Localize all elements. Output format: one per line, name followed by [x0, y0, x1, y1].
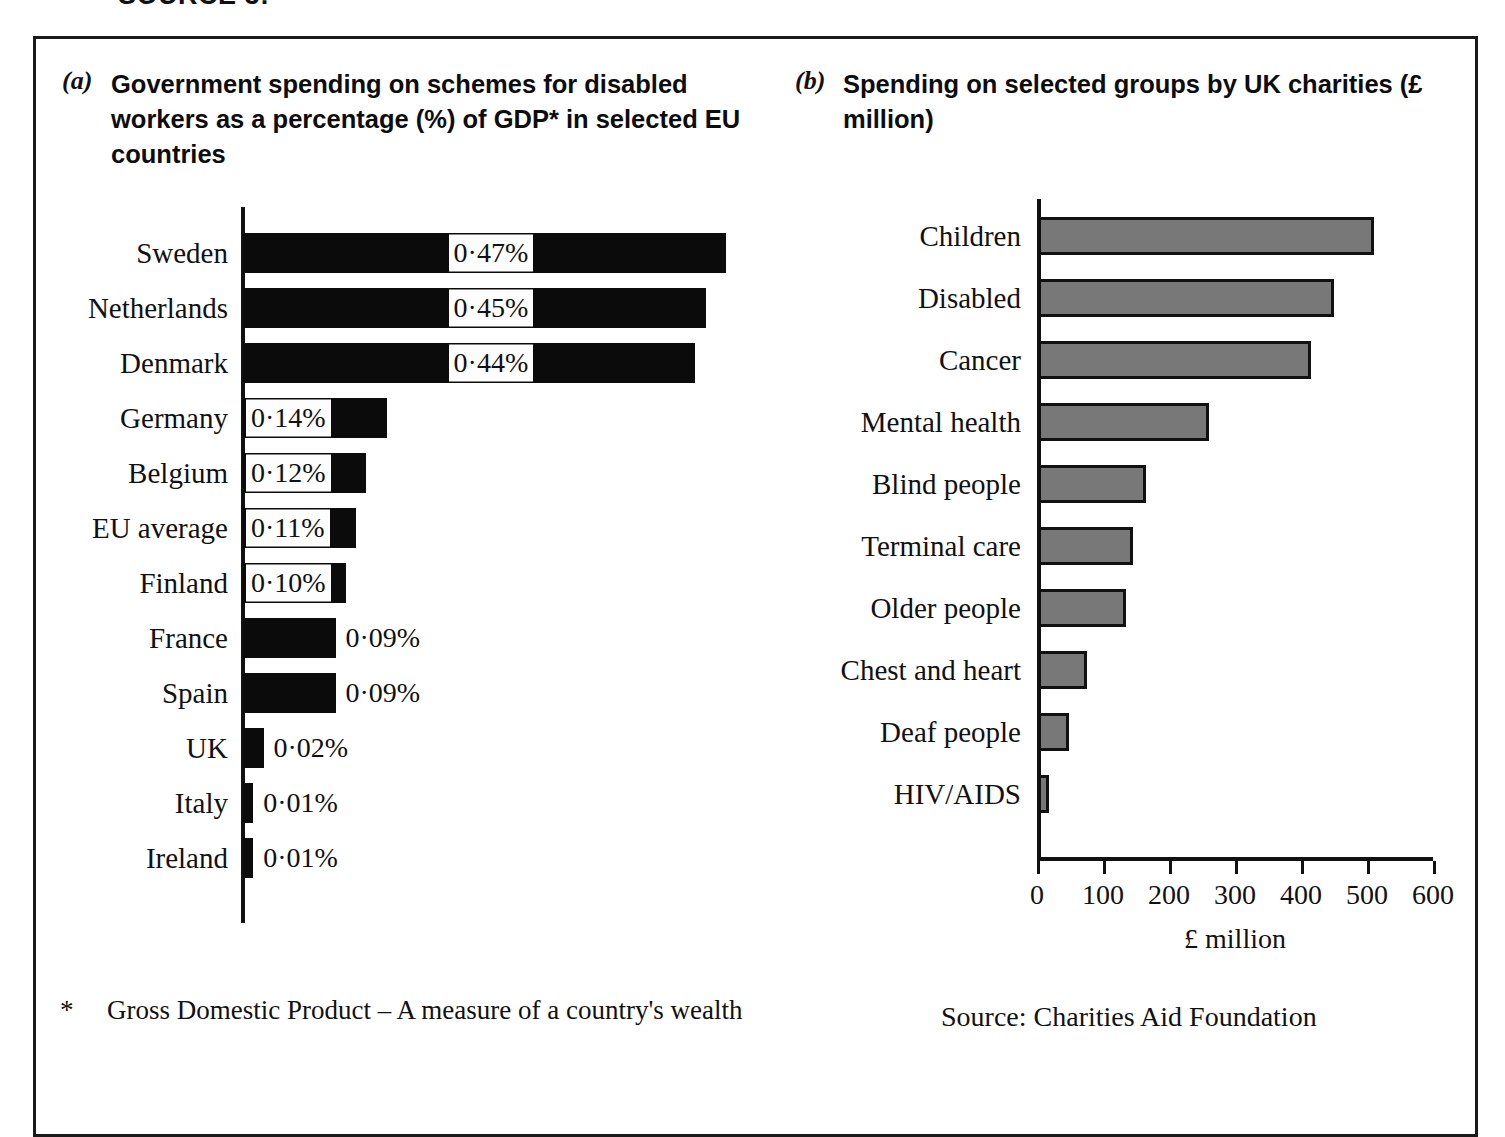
- chart-a-bar-row: Belgium0·12%: [36, 445, 781, 500]
- chart-b-y-axis: [1037, 199, 1041, 861]
- panel-b-title: Spending on selected groups by UK charit…: [843, 67, 1463, 137]
- chart-a-category-label: France: [149, 621, 228, 654]
- chart-a-value-label: 0·10%: [246, 564, 331, 601]
- footnote-gdp: * Gross Domestic Product – A measure of …: [60, 989, 760, 1031]
- chart-b-tick-label: 0: [1030, 879, 1044, 911]
- chart-a-category-label: Sweden: [136, 236, 228, 269]
- chart-b-tick-label: 300: [1214, 879, 1256, 911]
- chart-a-bar: [243, 838, 253, 878]
- chart-b-tick-label: 100: [1082, 879, 1124, 911]
- chart-a-value-label: 0·12%: [246, 454, 331, 491]
- chart-uk-charity-spending: ChildrenDisabledCancerMental healthBlind…: [781, 159, 1478, 949]
- chart-a-bar: [243, 618, 336, 658]
- chart-a-category-label: Denmark: [120, 346, 228, 379]
- chart-a-category-label: Finland: [139, 566, 228, 599]
- chart-a-value-label: 0·44%: [449, 344, 534, 381]
- chart-a-value-label: 0·01%: [263, 844, 338, 872]
- chart-a-category-label: Ireland: [146, 841, 228, 874]
- source-attribution: Source: Charities Aid Foundation: [941, 1001, 1317, 1033]
- panel-b-letter: (b): [795, 66, 825, 96]
- panel-a: (a) Government spending on schemes for d…: [36, 39, 781, 1134]
- chart-a-category-label: Spain: [162, 676, 228, 709]
- chart-a-bar-row: Ireland0·01%: [36, 830, 781, 885]
- chart-b-category-label: Chest and heart: [841, 654, 1021, 687]
- chart-a-category-label: EU average: [92, 511, 228, 544]
- chart-b-category-label: Disabled: [918, 282, 1021, 315]
- chart-a-bar-row: EU average0·11%: [36, 500, 781, 555]
- chart-a-value-label: 0·11%: [246, 509, 330, 546]
- panel-a-letter: (a): [62, 66, 92, 96]
- chart-b-x-axis-title: £ million: [1184, 923, 1286, 955]
- chart-a-category-label: Belgium: [128, 456, 228, 489]
- chart-eu-spending: Sweden0·47%Netherlands0·45%Denmark0·44%G…: [36, 207, 781, 937]
- chart-a-bar-row: Finland0·10%: [36, 555, 781, 610]
- panel-b: (b) Spending on selected groups by UK ch…: [781, 39, 1478, 1134]
- chart-b-category-label: Children: [920, 220, 1022, 253]
- chart-b-plot-area: 0100200300400500600 £ million: [1037, 199, 1433, 861]
- chart-b-category-label: Blind people: [872, 468, 1021, 501]
- chart-b-tick: [1169, 861, 1172, 874]
- chart-a-value-label: 0·09%: [346, 624, 421, 652]
- chart-b-tick: [1301, 861, 1304, 874]
- chart-a-bar: [243, 673, 336, 713]
- chart-b-tick: [1367, 861, 1370, 874]
- chart-b-category-label: Terminal care: [861, 530, 1021, 563]
- chart-a-value-label: 0·09%: [346, 679, 421, 707]
- footnote-text: Gross Domestic Product – A measure of a …: [107, 989, 760, 1031]
- chart-b-category-label: HIV/AIDS: [894, 778, 1021, 811]
- chart-b-category-label: Older people: [870, 592, 1021, 625]
- chart-b-tick: [1037, 861, 1040, 874]
- chart-b-category-label: Cancer: [939, 344, 1021, 377]
- chart-a-bar-row: Germany0·14%: [36, 390, 781, 445]
- chart-b-category-label: Mental health: [861, 406, 1021, 439]
- figure-frame: (a) Government spending on schemes for d…: [33, 36, 1478, 1137]
- chart-a-category-label: Netherlands: [88, 291, 228, 324]
- footnote-marker: *: [60, 989, 74, 1031]
- chart-a-value-label: 0·01%: [263, 789, 338, 817]
- chart-b-tick: [1433, 861, 1436, 874]
- chart-b-tick-label: 400: [1280, 879, 1322, 911]
- chart-a-bar-row: UK0·02%: [36, 720, 781, 775]
- panel-a-title: Government spending on schemes for disab…: [111, 67, 751, 172]
- chart-a-bar-row: Sweden0·47%: [36, 225, 781, 280]
- chart-a-category-label: Italy: [175, 786, 228, 819]
- chart-b-tick: [1235, 861, 1238, 874]
- chart-a-bar-row: Netherlands0·45%: [36, 280, 781, 335]
- chart-a-bar-row: Denmark0·44%: [36, 335, 781, 390]
- chart-a-category-label: UK: [186, 731, 228, 764]
- chart-a-bar-row: France0·09%: [36, 610, 781, 665]
- chart-b-category-label: Deaf people: [880, 716, 1021, 749]
- chart-a-bar: [243, 728, 264, 768]
- chart-b-tick-label: 200: [1148, 879, 1190, 911]
- chart-b-tick: [1103, 861, 1106, 874]
- chart-a-value-label: 0·45%: [449, 289, 534, 326]
- source-header-label: SOURCE 3:: [118, 0, 270, 11]
- chart-a-bar-row: Italy0·01%: [36, 775, 781, 830]
- chart-a-bar: [243, 783, 253, 823]
- chart-a-value-label: 0·47%: [449, 234, 534, 271]
- chart-a-value-label: 0·14%: [246, 399, 331, 436]
- chart-a-bar-row: Spain0·09%: [36, 665, 781, 720]
- chart-b-tick-label: 500: [1346, 879, 1388, 911]
- chart-a-value-label: 0·02%: [274, 734, 349, 762]
- chart-a-category-label: Germany: [120, 401, 228, 434]
- chart-b-tick-label: 600: [1412, 879, 1454, 911]
